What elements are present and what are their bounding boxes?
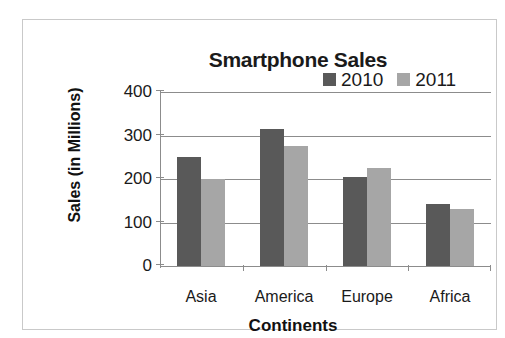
bar-africa-2011[interactable] — [450, 209, 474, 266]
bar-group-america — [243, 92, 326, 266]
bar-series-container — [160, 92, 491, 266]
legend-label-2011: 2011 — [415, 70, 456, 89]
y-tick-label-0: 0 — [143, 256, 152, 276]
y-tick-label-400: 400 — [124, 82, 152, 102]
chart-screenshot: Smartphone Sales 2010 2011 Sales (in Mil… — [0, 0, 505, 338]
chart-frame: Smartphone Sales 2010 2011 Sales (in Mil… — [22, 19, 497, 330]
legend-swatch-2011-icon — [397, 73, 410, 86]
bar-america-2011[interactable] — [284, 146, 308, 266]
y-tick-label-100: 100 — [124, 212, 152, 232]
x-axis-labels: Asia America Europe Africa — [160, 288, 491, 310]
chart-title: Smartphone Sales — [173, 48, 423, 72]
y-tick-label-300: 300 — [124, 125, 152, 145]
bar-group-asia — [160, 92, 243, 266]
x-axis-title: Continents — [203, 316, 383, 336]
y-axis-title: Sales (in Millions) — [66, 60, 84, 250]
x-label-africa: Africa — [430, 288, 471, 306]
bar-asia-2010[interactable] — [177, 157, 201, 266]
bar-asia-2011[interactable] — [201, 179, 225, 266]
plot-area: 400 300 200 100 0 — [160, 92, 491, 266]
bar-group-europe — [326, 92, 409, 266]
bar-america-2010[interactable] — [260, 129, 284, 266]
bar-group-africa — [408, 92, 491, 266]
legend-item-2011[interactable]: 2011 — [397, 70, 456, 89]
x-label-asia: Asia — [185, 288, 216, 306]
x-tick-mark-3 — [408, 265, 409, 271]
chart-legend: 2010 2011 — [323, 70, 456, 89]
y-tick-mark-400 — [156, 90, 164, 91]
legend-label-2010: 2010 — [341, 70, 383, 89]
legend-swatch-2010-icon — [323, 73, 336, 86]
x-tick-mark-2 — [326, 265, 327, 271]
bar-europe-2011[interactable] — [367, 168, 391, 266]
x-label-america: America — [255, 288, 314, 306]
x-label-europe: Europe — [341, 288, 393, 306]
x-tick-mark-4 — [490, 265, 491, 271]
bar-africa-2010[interactable] — [426, 204, 450, 266]
legend-item-2010[interactable]: 2010 — [323, 70, 383, 89]
y-tick-label-200: 200 — [124, 169, 152, 189]
bar-europe-2010[interactable] — [343, 177, 367, 266]
x-tick-mark-1 — [243, 265, 244, 271]
